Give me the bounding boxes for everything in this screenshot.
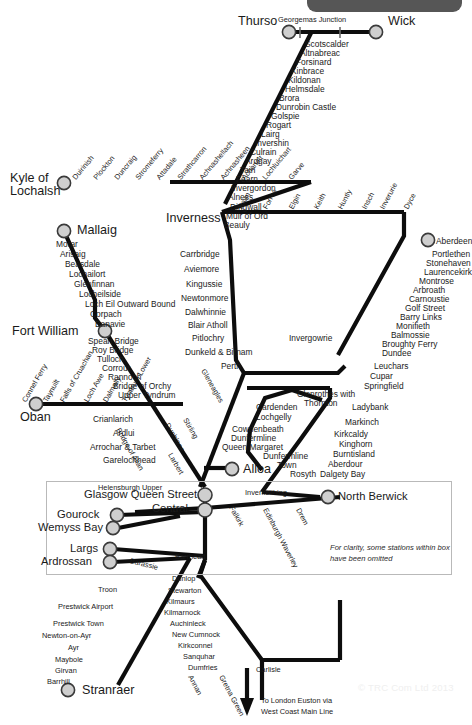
inset-omission-note: For clarity, some stations within box ha… bbox=[330, 542, 450, 564]
onward-destination-line-2: West Coast Main Line bbox=[261, 708, 333, 715]
station-label: Invergowrie bbox=[289, 334, 332, 342]
station-label: Sanquhar bbox=[183, 653, 215, 660]
station-label: Ladybank bbox=[352, 403, 388, 411]
station-label: Locheilside bbox=[79, 290, 121, 298]
station-label: Pitlochry bbox=[192, 334, 224, 342]
station-label: Kilmarnock bbox=[164, 609, 201, 616]
station-label: Rosyth bbox=[290, 470, 316, 478]
terminus-label-thurso: Thurso bbox=[238, 15, 277, 28]
station-label: Beasdale bbox=[65, 260, 100, 268]
terminus-label-stranraer: Stranraer bbox=[82, 684, 135, 697]
station-label: Dumfries bbox=[188, 664, 218, 671]
station-label-georgemas-junction: Georgemas Junction bbox=[278, 16, 346, 23]
terminus-label-wick: Wick bbox=[388, 15, 415, 28]
station-label: Cardenden bbox=[256, 403, 297, 411]
terminus-label-ardrossan: Ardrossan bbox=[41, 556, 92, 567]
station-label: Prestwick Airport bbox=[58, 603, 113, 610]
terminus-label-kyle-of-lochalsh-1: Kyle of bbox=[10, 172, 49, 185]
station-label: Newton-on-Ayr bbox=[42, 632, 91, 639]
terminus-label-glasgow-central: Central bbox=[152, 503, 188, 514]
station-label: New Cumnock bbox=[172, 631, 220, 638]
terminus-label-largs: Largs bbox=[70, 543, 98, 554]
station-label: Beauly bbox=[224, 221, 250, 229]
station-label: Troon bbox=[98, 586, 117, 593]
station-label: Lochailort bbox=[69, 270, 105, 278]
station-label: Carrbridge bbox=[180, 250, 220, 258]
station-label: Maybole bbox=[55, 656, 83, 663]
terminus-label-oban: Oban bbox=[20, 411, 51, 424]
station-label: Banavie bbox=[95, 320, 125, 328]
station-label: Burntisland bbox=[333, 450, 375, 458]
station-label: Barrhill bbox=[47, 678, 70, 685]
station-label: Corpach bbox=[90, 310, 122, 318]
terminus-label-alloa: Alloa bbox=[243, 463, 271, 476]
station-label: Dunkeld & Birnam bbox=[185, 348, 253, 356]
station-marker-aberdeen bbox=[421, 233, 434, 246]
station-label: Morar bbox=[56, 240, 78, 248]
station-marker-mallaig bbox=[57, 224, 70, 237]
station-label: Inverkeithing bbox=[245, 489, 287, 496]
station-label: Dunlop bbox=[172, 575, 195, 582]
terminus-label-mallaig: Mallaig bbox=[77, 224, 117, 237]
station-marker-wick bbox=[369, 25, 382, 38]
station-label: Aviemore bbox=[184, 265, 219, 273]
station-label: Thornton bbox=[304, 399, 338, 407]
station-label: Ayr bbox=[68, 644, 79, 651]
terminus-label-inverness: Inverness bbox=[166, 212, 221, 225]
station-label: Kingussie bbox=[186, 280, 222, 288]
station-label: Barrhead bbox=[175, 553, 205, 560]
station-label: Cupar bbox=[370, 372, 393, 380]
station-label: Kirkconnel bbox=[178, 642, 213, 649]
station-label: Leuchars bbox=[374, 362, 408, 370]
station-label: Auchinleck bbox=[170, 620, 206, 627]
station-label: Dalwhinnie bbox=[185, 308, 226, 316]
station-label: Helensburgh Upper bbox=[98, 484, 162, 491]
station-label: Dundee bbox=[382, 349, 411, 357]
station-label: Lochgelly bbox=[256, 413, 291, 421]
terminus-label-kyle-of-lochalsh-2: Lochalsh bbox=[10, 185, 60, 198]
terminus-label-wemyss-bay: Wemyss Bay bbox=[38, 522, 103, 533]
station-label: Girvan bbox=[55, 667, 77, 674]
station-label: Stewarton bbox=[168, 587, 201, 594]
station-label: Markinch bbox=[345, 418, 379, 426]
station-label: Perth bbox=[221, 362, 241, 370]
onward-destination-line-1: To London Euston via bbox=[261, 697, 332, 704]
station-label: Carlisle bbox=[256, 666, 281, 673]
station-label: Loch Eil Outward Bound bbox=[85, 300, 175, 308]
copyright-watermark: © TRC Com Ltd 2013 bbox=[358, 683, 454, 693]
station-label: Glenfinnan bbox=[74, 280, 115, 288]
station-label: Newtonmore bbox=[181, 294, 228, 302]
station-label: Aberdour bbox=[328, 460, 362, 468]
station-label: Kinghorn bbox=[339, 440, 373, 448]
station-label: Blair Atholl bbox=[188, 321, 228, 329]
terminus-label-north-berwick: North Berwick bbox=[338, 491, 408, 502]
terminus-label-fort-william: Fort William bbox=[12, 325, 78, 338]
station-label: Springfield bbox=[364, 382, 404, 390]
station-marker-alloa bbox=[225, 462, 238, 475]
station-marker-thurso bbox=[282, 25, 295, 38]
terminus-label-gourock: Gourock bbox=[57, 509, 99, 520]
station-label: Arisaig bbox=[60, 250, 86, 258]
station-label: Dalgety Bay bbox=[320, 470, 365, 478]
station-label: Kirkcaldy bbox=[334, 430, 368, 438]
station-label: Crianlarich bbox=[93, 415, 133, 423]
terminus-label-aberdeen: Aberdeen bbox=[436, 237, 472, 245]
station-label: Prestwick Town bbox=[53, 620, 104, 627]
station-label: Kilmaurs bbox=[166, 598, 195, 605]
